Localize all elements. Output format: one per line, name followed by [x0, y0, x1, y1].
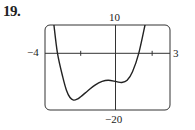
graph	[0, 0, 195, 130]
function-curve	[54, 25, 145, 100]
viewing-window-frame	[45, 25, 170, 110]
